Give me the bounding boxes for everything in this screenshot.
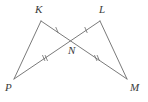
geometry-figure: KLNPM <box>0 0 148 102</box>
vertex-label-l: L <box>99 4 105 15</box>
tick-N-M <box>95 55 100 60</box>
vertex-label-n: N <box>68 45 75 56</box>
segment-K-M <box>41 21 127 79</box>
vertex-label-p: P <box>5 82 12 93</box>
vertex-label-k: K <box>35 4 42 15</box>
vertex-label-m: M <box>130 82 139 93</box>
